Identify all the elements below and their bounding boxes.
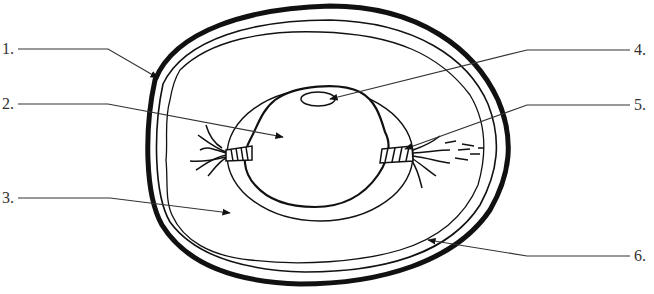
label-1: 1. bbox=[2, 41, 14, 57]
germinal-disc bbox=[301, 92, 335, 106]
label-2: 2. bbox=[2, 96, 14, 112]
label-5: 5. bbox=[634, 97, 646, 113]
leader-line-1 bbox=[18, 49, 158, 78]
egg-drawing bbox=[0, 0, 654, 294]
chalaza-left bbox=[190, 125, 252, 176]
chalaza-right bbox=[380, 136, 484, 188]
label-4: 4. bbox=[634, 42, 646, 58]
label-6: 6. bbox=[634, 248, 646, 264]
leader-line-3 bbox=[18, 198, 230, 213]
leader-line-5 bbox=[405, 105, 630, 149]
egg-diagram: 1. 2. 3. 4. 5. 6. bbox=[0, 0, 654, 294]
label-3: 3. bbox=[2, 190, 14, 206]
